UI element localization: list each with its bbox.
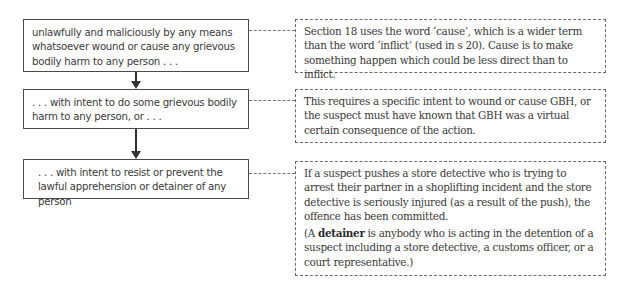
connector-1 [249,30,295,31]
arrow-down-icon [131,151,141,159]
definition-term: detainer [318,227,365,239]
note-text-2: This requires a specific intent to wound… [304,94,597,137]
connector-3 [249,173,295,174]
step-box-1: unlawfully and maliciously by any means … [23,19,249,72]
note-text-1: Section 18 uses the word ‘cause’, which … [304,24,597,81]
note-box-3: If a suspect pushes a store detective wh… [295,161,606,276]
step-text-1: unlawfully and maliciously by any means … [32,27,235,67]
step-text-2: . . . with intent to do some grievous bo… [32,97,237,122]
note-text-3: If a suspect pushes a store detective wh… [304,166,597,223]
step-box-2: . . . with intent to do some grievous bo… [23,89,249,129]
arrow-down-icon [131,81,141,89]
step-text-3: . . . with intent to resist or prevent t… [38,167,226,207]
note-box-1: Section 18 uses the word ‘cause’, which … [295,19,606,73]
definition-prefix: (A [304,227,318,239]
note-box-2: This requires a specific intent to wound… [295,89,606,143]
step-box-3: . . . with intent to resist or prevent t… [23,159,249,199]
connector-2 [249,100,295,101]
note-definition: (A detainer is anybody who is acting in … [304,226,597,269]
arrow-line-2 [135,129,137,152]
